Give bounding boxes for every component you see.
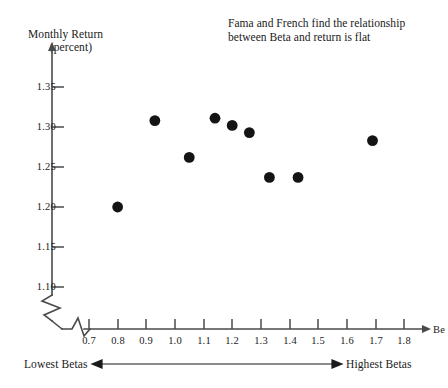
data-point [210,113,221,124]
data-point [184,152,195,163]
x-tick-label-0.9: 0.9 [133,335,159,346]
data-points [112,113,378,213]
x-tick-label-1.7: 1.7 [363,335,389,346]
y-axis-arrowhead [48,42,56,51]
x-tick-label-0.8: 0.8 [105,335,131,346]
data-point [149,115,160,126]
range-label-lowest-betas: Lowest Betas [24,358,87,371]
axis-arrowheads [48,42,431,333]
data-point [112,202,123,213]
x-tick-label-1.0: 1.0 [162,335,188,346]
scatter-chart-figure: Monthly Return (percent) Fama and French… [0,0,448,388]
data-point [293,172,304,183]
beta-range-arrow [92,360,342,368]
x-tick-label-1.1: 1.1 [191,335,217,346]
y-axis-break-zigzag [42,295,60,321]
y-tick-label-1.25: 1.25 [22,161,56,172]
y-tick-label-1.10: 1.10 [22,281,56,292]
x-tick-label-1.3: 1.3 [248,335,274,346]
data-point [264,172,275,183]
data-point [244,127,255,138]
plot-canvas [0,0,448,388]
x-axis-break-zigzag [62,318,90,336]
y-axis-ticks [52,87,64,287]
y-tick-label-1.15: 1.15 [22,241,56,252]
range-label-highest-betas: Highest Betas [346,358,412,371]
x-axis-arrowhead [422,325,431,333]
data-point [227,120,238,131]
x-tick-label-1.4: 1.4 [277,335,303,346]
y-tick-label-1.30: 1.30 [22,121,56,132]
y-tick-label-1.20: 1.20 [22,201,56,212]
x-tick-label-1.2: 1.2 [219,335,245,346]
x-tick-label-1.8: 1.8 [391,335,417,346]
beta-range-arrow-right-head [332,360,342,368]
x-tick-label-1.6: 1.6 [334,335,360,346]
x-axis-ticks [89,319,404,329]
x-axis-name: Be [433,324,445,335]
y-tick-label-1.35: 1.35 [22,81,56,92]
x-tick-label-1.5: 1.5 [305,335,331,346]
axis-lines [42,49,424,336]
y-axis-lower-stub [52,321,62,329]
x-tick-label-0.7: 0.7 [76,335,102,346]
beta-range-arrow-left-head [92,360,102,368]
data-point [367,135,378,146]
